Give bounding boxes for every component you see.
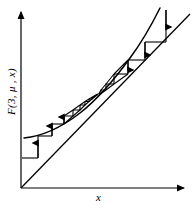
x-axis-label: x: [96, 192, 101, 203]
cobweb-left-arrows: [38, 117, 64, 158]
identity-line: [21, 14, 190, 188]
cobweb-hatch: [114, 60, 128, 74]
function-curve: [24, 8, 160, 138]
cobweb-hatch: [64, 110, 73, 116]
cobweb-hatch: [73, 105, 80, 110]
cobweb-plot: [0, 0, 195, 210]
cobweb-hatch: [97, 94, 98, 95]
y-axis-label: F(3, μ , x): [6, 55, 17, 129]
chart-figure: F(3, μ , x) x: [0, 0, 195, 210]
cobweb-right-arrows: [128, 10, 166, 70]
cobweb-right-branch: [99, 10, 166, 94]
axis-group: [21, 12, 184, 188]
